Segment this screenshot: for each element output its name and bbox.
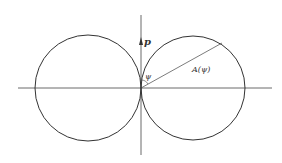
- diagram-canvas: p ψ A(ψ): [0, 0, 282, 163]
- p-arrow-icon: [139, 37, 143, 45]
- psi-label: ψ: [145, 72, 152, 81]
- a-psi-label: A(ψ): [191, 65, 210, 74]
- p-label: p: [144, 36, 151, 47]
